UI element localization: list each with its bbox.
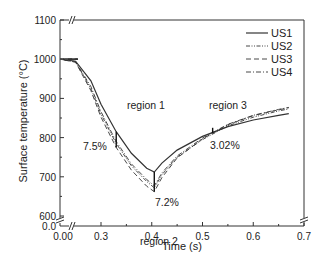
- legend-label: US1: [271, 27, 292, 39]
- annotation-label: region 1: [127, 99, 165, 111]
- annotation-label: 7.2%: [155, 196, 179, 208]
- x-tick-label: 0.00: [53, 231, 73, 242]
- legend-label: US2: [271, 40, 292, 52]
- y-tick-label: 700: [39, 172, 56, 183]
- y-axis-label: Surface temperature (°C): [17, 60, 29, 183]
- y-tick-label: 1100: [34, 15, 56, 26]
- series-us2: [60, 59, 288, 188]
- series-lines: [60, 59, 289, 192]
- y-tick-label: 1000: [34, 54, 57, 65]
- series-us1: [60, 59, 288, 172]
- annotation-label: 3.02%: [210, 139, 240, 151]
- difference-markers: [116, 128, 212, 192]
- x-axis-label: Time (s): [162, 240, 202, 252]
- series-us4: [60, 59, 288, 186]
- y-tick-label: 900: [39, 93, 56, 104]
- temperature-chart: 600700800900100011000.00.30.40.50.60.70.…: [0, 0, 325, 269]
- annotation-label: 7.5%: [83, 140, 107, 152]
- legend: US1US2US3US4: [246, 27, 292, 78]
- x-tick-label: 0.6: [246, 231, 260, 242]
- series-us3: [60, 59, 288, 192]
- y-tick-label: 800: [39, 133, 56, 144]
- x-tick-label: 0.7: [297, 231, 311, 242]
- x-tick-label: 0.3: [94, 231, 108, 242]
- legend-label: US4: [271, 66, 292, 78]
- annotation-label: region 3: [209, 99, 247, 111]
- legend-label: US3: [271, 53, 292, 65]
